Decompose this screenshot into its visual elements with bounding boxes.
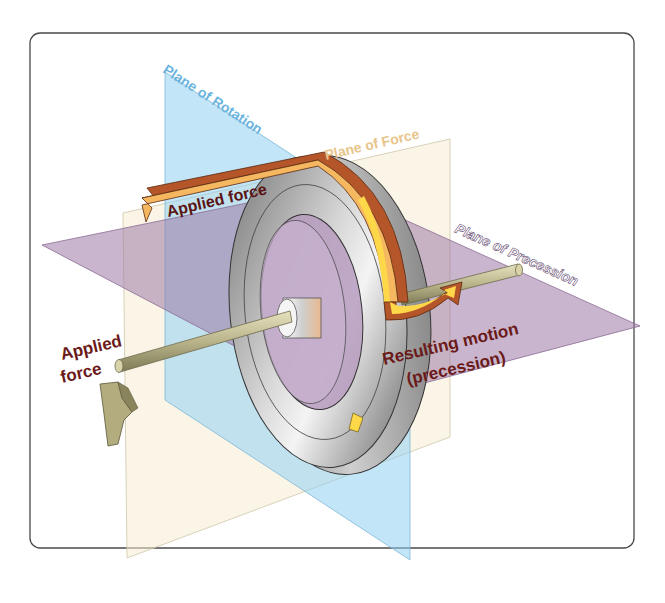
gyroscope-diagram: Plane of Rotation Plane of Force Plane o… <box>0 0 665 603</box>
axle-left-end <box>115 360 123 373</box>
axle-right-end <box>516 264 523 276</box>
